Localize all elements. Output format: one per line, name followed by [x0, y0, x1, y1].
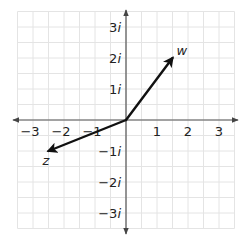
complex-plane-diagram: −3−2−1123 3i2i1i−1i−2i−3i wz [0, 0, 246, 235]
imaginary-tick-label: −1i [98, 144, 121, 159]
imaginary-tick-label: 3i [109, 20, 121, 35]
vector-w-label: w [177, 43, 188, 58]
real-tick-label: 1 [153, 124, 161, 139]
real-tick-label: 3 [215, 124, 223, 139]
imaginary-tick-label: 2i [109, 51, 121, 66]
imaginary-tick-label: 1i [109, 82, 121, 97]
vector-z-label: z [42, 153, 51, 168]
real-axis-tick-labels: −3−2−1123 [20, 124, 223, 139]
axes [13, 10, 238, 234]
real-tick-label: 2 [184, 124, 192, 139]
real-tick-label: −2 [51, 124, 70, 139]
imaginary-tick-label: −3i [98, 206, 121, 221]
imaginary-tick-label: −2i [98, 175, 121, 190]
real-tick-label: −3 [20, 124, 39, 139]
